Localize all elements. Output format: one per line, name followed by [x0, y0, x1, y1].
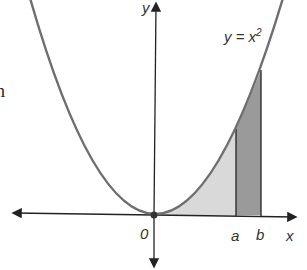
origin-point	[151, 212, 158, 219]
bound-b-label: b	[256, 227, 264, 242]
function-label-exponent: 2	[256, 27, 262, 38]
x-axis	[154, 215, 295, 217]
bound-a-label: a	[231, 228, 239, 243]
x-axis-negative	[14, 213, 154, 215]
x-axis-label: x	[286, 228, 294, 243]
clipped-margin-text: n	[0, 82, 5, 100]
y-axis-label: y	[142, 0, 150, 15]
origin-label: 0	[140, 226, 148, 241]
parabola-area-diagram: n y y = x2 0 a b x	[0, 0, 307, 270]
shaded-region-0-to-a	[154, 129, 236, 215]
function-label-base: y = x	[224, 28, 256, 45]
shaded-region-a-to-b	[236, 70, 261, 215]
y-axis	[154, 4, 156, 215]
function-label: y = x2	[224, 28, 262, 44]
